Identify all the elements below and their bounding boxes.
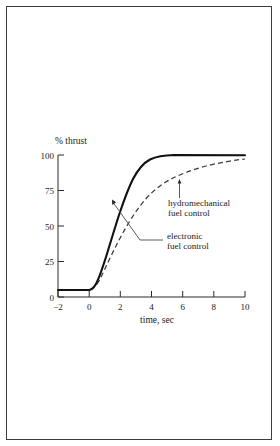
x-axis-tick-labels: −2 0 2 4 6 8 10 (53, 302, 250, 312)
electronic-label-line2: fuel control (167, 241, 209, 251)
x-tick-label-6: 6 (180, 302, 185, 312)
y-axis-title: % thrust (55, 136, 87, 146)
x-tick-label-4: 4 (149, 302, 154, 312)
hydromechanical-leader-arrowhead (178, 179, 182, 184)
y-tick-label-100: 100 (41, 151, 55, 161)
x-tick-label-0: 0 (87, 302, 92, 312)
y-axis-ticks (58, 155, 64, 297)
y-tick-label-50: 50 (45, 222, 55, 232)
figure-root: 0 25 50 75 100 −2 0 2 4 6 8 10 % thrus (0, 0, 280, 446)
x-tick-label-8: 8 (212, 302, 217, 312)
x-tick-label-2: 2 (118, 302, 123, 312)
x-axis-title: time, sec (140, 315, 174, 325)
x-tick-label-10: 10 (241, 302, 251, 312)
hydromechanical-label-line2: fuel control (168, 208, 210, 218)
y-axis-tick-labels: 0 25 50 75 100 (41, 151, 55, 303)
y-tick-label-0: 0 (50, 293, 55, 303)
curve-hydromechanical-fuel-control (58, 159, 245, 290)
y-tick-label-25: 25 (45, 257, 55, 267)
hydromechanical-label-line1: hydromechanical (168, 198, 230, 208)
curve-electronic-fuel-control (58, 155, 245, 290)
thrust-vs-time-chart: 0 25 50 75 100 −2 0 2 4 6 8 10 % thrus (0, 0, 280, 446)
annotation-hydromechanical: hydromechanical fuel control (168, 179, 230, 218)
y-tick-label-75: 75 (45, 186, 55, 196)
electronic-label-line1: electronic (167, 231, 202, 241)
x-tick-label-neg2: −2 (53, 302, 63, 312)
x-axis-ticks (58, 291, 245, 297)
chart-axes (58, 155, 245, 297)
